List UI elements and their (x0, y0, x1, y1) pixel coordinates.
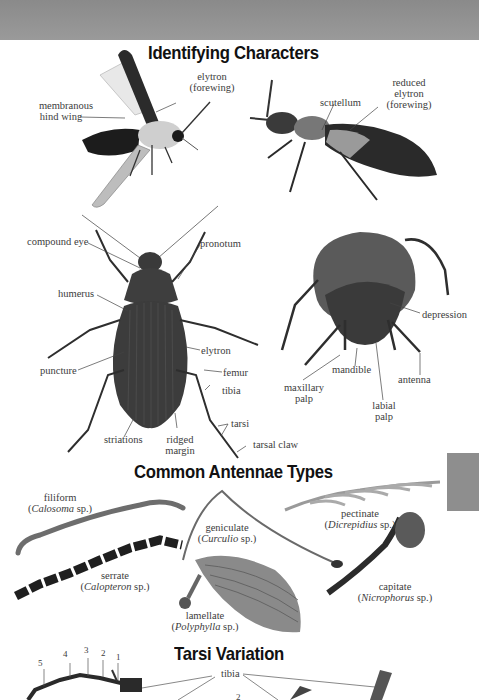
label-forewing-text-2: (forewing) (387, 99, 432, 110)
antenna-type-name: pectinate (341, 508, 379, 519)
label-tibia-ground: tibia (222, 385, 241, 396)
antenna-genus: Calopteron (84, 581, 131, 592)
antenna-genus: Calosoma (31, 503, 74, 514)
label-depression: depression (422, 309, 467, 320)
antenna-genus: Polyphylla (175, 621, 221, 632)
antenna-type-name: capitate (379, 581, 412, 592)
tarsus-segment-4: 4 (63, 649, 68, 660)
tarsus-segment-1: 1 (116, 652, 121, 663)
antenna-suffix: sp.) (131, 581, 149, 592)
label-serrate: serrate(Calopteron sp.) (70, 570, 160, 592)
label-capitate: capitate(Nicrophorus sp.) (350, 581, 440, 603)
label-palp-text-2: palp (375, 411, 393, 422)
pectinate-antenna-illustration (285, 482, 440, 510)
antenna-suffix: sp.) (377, 519, 395, 530)
antenna-type-name: serrate (101, 570, 129, 581)
antenna-genus: Nicrophorus (361, 592, 414, 603)
label-reduced-text: reduced (392, 77, 425, 88)
tarsus-segment-5: 5 (38, 658, 43, 669)
heading-identifying-characters: Identifying Characters (148, 42, 319, 64)
heading-tarsi-variation: Tarsi Variation (174, 643, 284, 665)
label-elytron-ground: elytron (201, 345, 231, 356)
label-mandible: mandible (332, 364, 371, 375)
label-ridged-margin: ridged margin (160, 434, 200, 456)
antenna-genus: Curculio (201, 533, 238, 544)
antenna-suffix: sp.) (220, 621, 238, 632)
label-elytron-text-2: elytron (394, 88, 424, 99)
label-labial-palp: labial palp (366, 400, 402, 422)
label-membranous-hind-wing: membranous hind wing (34, 100, 98, 122)
label-femur: femur (223, 367, 248, 378)
label-antenna: antenna (398, 374, 431, 385)
antenna-genus: Dicrepidius (328, 519, 377, 530)
tarsus-segment-2: 2 (101, 648, 106, 659)
label-striations: striations (104, 434, 143, 445)
label-elytron-firefly: elytron (forewing) (182, 71, 242, 93)
label-hind-wing-text: hind wing (40, 111, 82, 122)
label-maxillary-text: maxillary (284, 382, 324, 393)
label-margin-text: margin (165, 445, 195, 456)
antenna-suffix: sp.) (238, 533, 256, 544)
antenna-type-name: filiform (44, 492, 77, 503)
antenna-type-name: geniculate (205, 522, 248, 533)
label-tibia-tarsi: tibia (221, 668, 240, 679)
label-palp-text: palp (295, 393, 313, 404)
label-ridged-text: ridged (167, 434, 194, 445)
antenna-type-name: lamellate (186, 610, 224, 621)
label-forewing-text: (forewing) (190, 82, 235, 93)
label-maxillary-palp: maxillary palp (280, 382, 328, 404)
label-geniculate: geniculate(Curculio sp.) (188, 522, 266, 544)
label-pectinate: pectinate(Dicrepidius sp.) (314, 508, 406, 530)
label-reduced-elytron: reduced elytron (forewing) (378, 77, 440, 110)
label-humerus: humerus (58, 288, 94, 299)
antenna-suffix: sp.) (74, 503, 92, 514)
label-filiform: filiform(Calosoma sp.) (20, 492, 100, 514)
label-tarsi: tarsi (231, 418, 249, 429)
label-pronotum: pronotum (200, 238, 241, 249)
label-lamellate: lamellate(Polyphylla sp.) (162, 610, 248, 632)
label-scutellum: scutellum (320, 97, 361, 108)
label-elytron-text: elytron (197, 71, 227, 82)
heading-common-antennae-types: Common Antennae Types (134, 461, 333, 483)
tarsus-segment-3: 3 (84, 645, 89, 656)
label-membranous-text: membranous (39, 100, 93, 111)
label-labial-text: labial (372, 400, 395, 411)
label-compound-eye: compound eye (27, 236, 89, 247)
label-tarsal-claw: tarsal claw (253, 439, 298, 450)
scarab-illustration (282, 232, 448, 365)
antenna-suffix: sp.) (414, 592, 432, 603)
tarsus-partial-number: 2 (236, 692, 241, 700)
label-puncture: puncture (40, 365, 77, 376)
